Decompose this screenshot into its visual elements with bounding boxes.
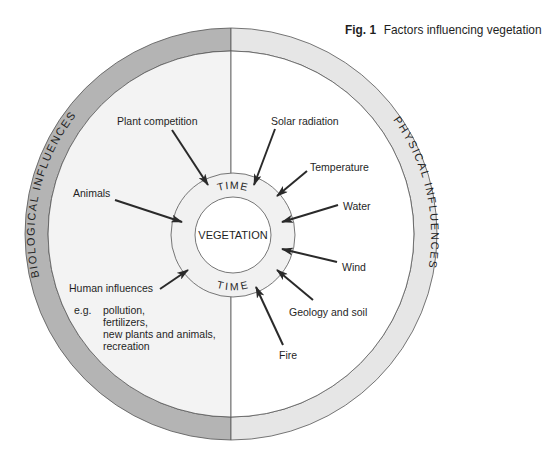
human-example-4: recreation — [103, 340, 150, 352]
figure-caption: Fig. 1 Factors influencing vegetation — [345, 22, 542, 37]
human-example-3: new plants and animals, — [103, 328, 216, 340]
factor-animals: Animals — [73, 187, 110, 199]
figure-title: Factors influencing vegetation — [384, 22, 542, 37]
factor-water: Water — [343, 200, 371, 212]
vegetation-label: VEGETATION — [198, 229, 267, 241]
factor-plant-competition: Plant competition — [117, 115, 198, 127]
factor-wind: Wind — [342, 261, 366, 273]
factor-temperature: Temperature — [310, 161, 369, 173]
diagram-canvas: BIOLOGICAL INFLUENCES PHYSICAL INFLUENCE… — [0, 0, 553, 457]
factor-human-influences: Human influences — [69, 282, 153, 294]
vegetation-factors-diagram: Fig. 1 Factors influencing vegetation BI… — [0, 0, 553, 457]
factor-solar-radiation: Solar radiation — [271, 115, 339, 127]
factor-fire: Fire — [279, 349, 297, 361]
factor-geology-soil: Geology and soil — [289, 306, 367, 318]
human-examples-prefix: e.g. — [74, 304, 92, 316]
figure-number: Fig. 1 — [345, 22, 376, 37]
human-example-1: pollution, — [103, 304, 145, 316]
human-example-2: fertilizers, — [103, 316, 148, 328]
